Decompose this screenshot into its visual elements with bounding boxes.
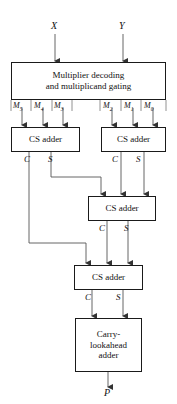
signal-label-c4: C — [85, 293, 91, 302]
cla-line-2: lookahead — [90, 340, 127, 351]
cla-line-1: Carry- — [90, 329, 127, 340]
block-cs-adder-3: CS adder — [88, 196, 156, 221]
cs-adder-2-label: CS adder — [117, 134, 150, 145]
signal-label-c2: C — [112, 155, 118, 164]
signal-label-s3: S — [124, 224, 129, 233]
block-carry-lookahead-adder: Carry- lookahead adder — [75, 318, 142, 372]
block-cs-adder-4: CS adder — [74, 265, 143, 290]
multiplier-block-diagram: X Y P Multiplier decoding and multiplica… — [0, 0, 177, 404]
cs-adder-1-label: CS adder — [29, 134, 62, 145]
signal-label-c3: C — [99, 224, 105, 233]
block-cs-adder-1: CS adder — [11, 127, 80, 152]
signal-label-s1: S — [48, 155, 53, 164]
signal-label-s2: S — [136, 155, 141, 164]
cs-adder-3-label: CS adder — [105, 203, 138, 214]
signal-label-s4: S — [116, 293, 121, 302]
block-cs-adder-2: CS adder — [101, 127, 166, 152]
cs-adder-4-label: CS adder — [92, 272, 125, 283]
signal-label-c1: C — [24, 155, 30, 164]
cla-line-3: adder — [90, 350, 127, 361]
